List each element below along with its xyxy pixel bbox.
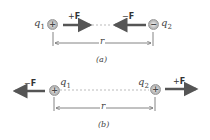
q1-label-b: q1: [60, 76, 71, 90]
caption-b: (b): [98, 120, 109, 129]
force-label-b-q2: +F: [173, 77, 185, 86]
force-label-b-q1: −F: [24, 79, 36, 88]
q2-label-a: q2: [161, 17, 172, 31]
separation-label-a: r: [99, 36, 105, 46]
diagram-lines: [0, 0, 210, 140]
force-label-a-q1: +F: [68, 12, 80, 21]
force-label-a-q2: −F: [122, 12, 134, 21]
q2-label-b: q2: [138, 76, 149, 90]
q1-label-a: q1: [34, 17, 45, 31]
charge-q1-b: +: [49, 85, 60, 96]
charge-q2-a: −: [148, 19, 159, 30]
separation-label-b: r: [100, 101, 106, 111]
caption-a: (a): [96, 55, 107, 64]
charge-q2-b: +: [150, 84, 161, 95]
charge-q1-a: +: [47, 19, 58, 30]
